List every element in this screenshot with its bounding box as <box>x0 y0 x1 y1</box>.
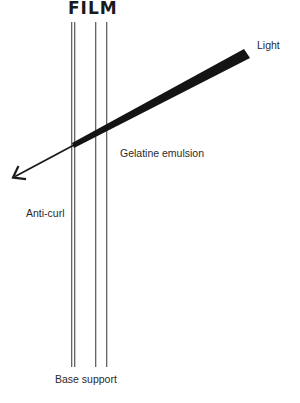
anti-curl-label: Anti-curl <box>26 207 65 219</box>
film-diagram <box>0 0 300 403</box>
light-beam <box>72 49 250 148</box>
light-label: Light <box>257 39 280 51</box>
film-layer-lines <box>72 22 107 367</box>
base-support-label: Base support <box>55 373 117 385</box>
diagram-title: FILM <box>68 0 118 18</box>
gelatine-emulsion-label: Gelatine emulsion <box>120 147 204 159</box>
transmitted-ray <box>15 145 74 177</box>
